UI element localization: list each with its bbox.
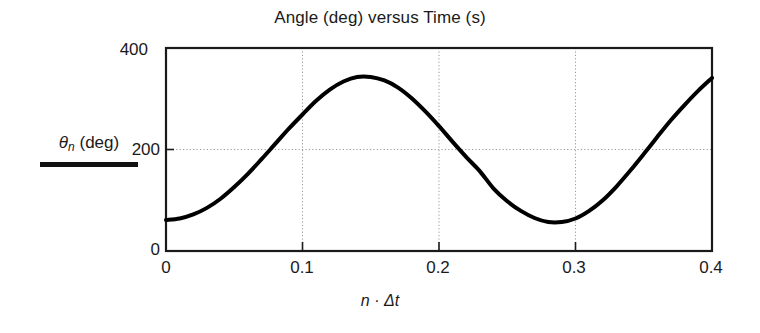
plot-area	[0, 0, 760, 333]
chart-figure: Angle (deg) versus Time (s) θn (deg) 400…	[0, 0, 760, 333]
axis-ticks	[166, 150, 576, 252]
gridlines	[166, 48, 712, 251]
